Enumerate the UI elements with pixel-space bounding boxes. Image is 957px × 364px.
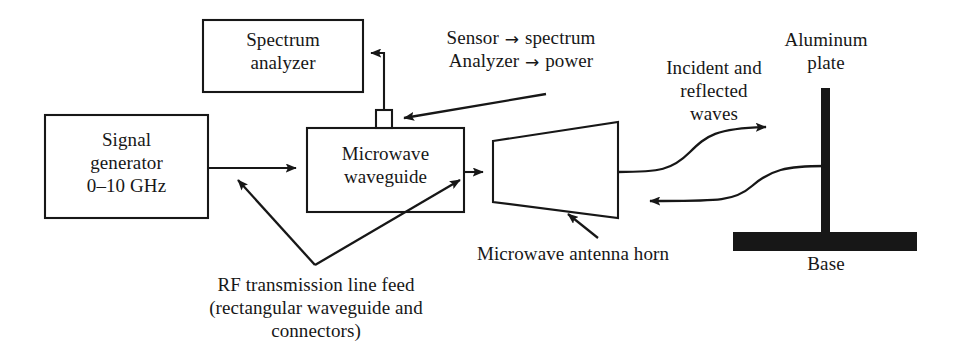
signal-generator-label-line1: Signal	[45, 128, 208, 151]
base-label: Base	[770, 252, 882, 275]
sensor-note-line1: Sensor → spectrum	[421, 26, 621, 49]
rf-feed-line2: (rectangular waveguide and	[140, 296, 492, 319]
spectrum-analyzer-label: Spectrum analyzer	[203, 28, 363, 74]
sensor-note-leader	[404, 94, 546, 118]
aluminum-plate-shape	[821, 88, 830, 234]
antenna-horn-leader	[568, 214, 598, 238]
reflected-wave-arrow	[650, 166, 825, 201]
rf-feed-line1: RF transmission line feed	[140, 273, 492, 296]
rf-transmission-line-feed-label: RF transmission line feed (rectangular w…	[140, 273, 492, 343]
spectrum-analyzer-label-line2: analyzer	[203, 51, 363, 74]
sensor-box	[376, 110, 392, 128]
sensor-note-line1-prefix: Sensor	[447, 27, 499, 48]
base-line1: Base	[770, 252, 882, 275]
sensor-note-line2: Analyzer → power	[421, 49, 621, 72]
sensor-note-line2-suffix: power	[545, 50, 593, 71]
microwave-antenna-horn-label: Microwave antenna horn	[455, 242, 691, 265]
rf-feed-leader-left	[238, 180, 315, 265]
signal-generator-label: Signal generator 0–10 GHz	[45, 128, 208, 198]
sensor-note-line1-suffix: spectrum	[525, 27, 595, 48]
incident-reflected-line2: reflected	[636, 79, 792, 102]
antenna-horn-line1: Microwave antenna horn	[455, 242, 691, 265]
aluminum-plate-line2: plate	[762, 51, 890, 74]
spectrum-analyzer-label-line1: Spectrum	[203, 28, 363, 51]
signal-generator-label-line2: generator	[45, 151, 208, 174]
aluminum-plate-line1: Aluminum	[762, 28, 890, 51]
right-arrow-icon: →	[504, 29, 520, 49]
rf-feed-line3: connectors)	[140, 319, 492, 342]
microwave-waveguide-label-line2: waveguide	[307, 165, 464, 188]
right-arrow-icon: →	[524, 52, 540, 72]
sensor-to-analyzer-line	[371, 53, 384, 110]
sensor-note-line2-prefix: Analyzer	[449, 50, 519, 71]
microwave-waveguide-label-line1: Microwave	[307, 142, 464, 165]
sensor-note-label: Sensor → spectrum Analyzer → power	[421, 26, 621, 72]
signal-generator-label-line3: 0–10 GHz	[45, 174, 208, 197]
figure-canvas: Spectrum analyzer Signal generator 0–10 …	[0, 0, 957, 364]
base-shape	[733, 232, 917, 251]
microwave-waveguide-label: Microwave waveguide	[307, 142, 464, 188]
aluminum-plate-label: Aluminum plate	[762, 28, 890, 74]
incident-wave-arrow	[618, 127, 766, 172]
antenna-horn-shape	[493, 122, 618, 218]
rf-feed-leader-right	[315, 180, 460, 265]
incident-reflected-line3: waves	[636, 102, 792, 125]
